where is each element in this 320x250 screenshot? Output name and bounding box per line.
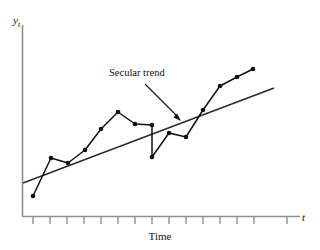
data-point: [201, 108, 206, 113]
data-point: [184, 135, 189, 140]
trend-line: [23, 88, 274, 183]
secular-trend-annotation-label: Secular trend: [109, 67, 165, 78]
x-axis-ticks: [33, 217, 287, 225]
data-point: [66, 161, 71, 166]
data-point: [99, 127, 104, 132]
data-point: [150, 155, 155, 160]
data-point: [83, 148, 88, 153]
axes-group: [23, 25, 301, 217]
data-point: [31, 194, 36, 199]
data-point: [116, 110, 121, 115]
y-axis-label: yt: [13, 14, 20, 29]
x-axis-symbol-label: t: [302, 211, 305, 223]
data-point: [235, 75, 240, 80]
chart-canvas: [0, 0, 320, 250]
data-point: [218, 84, 223, 89]
observed-series-markers: [31, 67, 256, 199]
x-axis-title: Time: [0, 230, 320, 242]
data-point: [167, 131, 172, 136]
chart-figure: yt t Time Secular trend: [0, 0, 320, 250]
data-point: [150, 123, 155, 128]
data-point: [49, 156, 54, 161]
annotation-arrow: [145, 84, 181, 121]
y-axis-subscript: t: [18, 20, 20, 29]
data-point: [251, 67, 256, 72]
data-point: [133, 122, 138, 127]
